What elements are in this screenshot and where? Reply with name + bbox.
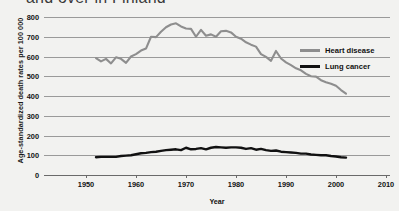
- chart-legend: Heart diseaseLung cancer: [300, 46, 374, 71]
- x-axis-tick-label: 2010: [378, 180, 394, 189]
- chart-title: and over in Finland: [26, 0, 166, 7]
- x-axis-tick-label: 1950: [78, 180, 94, 189]
- y-axis-tick-label: 200: [27, 131, 39, 140]
- y-axis-tick-label: 300: [27, 111, 39, 120]
- x-axis-tick: [336, 175, 337, 178]
- x-axis-tick: [386, 175, 387, 178]
- x-axis-tick: [86, 175, 87, 178]
- y-axis-tick-label: 700: [27, 32, 39, 41]
- x-axis-tick: [136, 175, 137, 178]
- legend-swatch-icon: [300, 65, 320, 68]
- x-axis-tick-label: 1970: [178, 180, 194, 189]
- legend-label: Lung cancer: [325, 62, 370, 71]
- y-axis-tick-label: 500: [27, 72, 39, 81]
- chart-title-clip: and over in Finland: [0, 0, 399, 11]
- x-axis-tick-label: 1960: [128, 180, 144, 189]
- y-axis-tick-label: 0: [35, 171, 39, 180]
- y-axis-tick-label: 400: [27, 92, 39, 101]
- x-axis-tick: [186, 175, 187, 178]
- legend-swatch-icon: [300, 49, 320, 51]
- x-axis-tick-label: 1980: [228, 180, 244, 189]
- data-series-layer: [44, 17, 390, 175]
- plot-area: 0100200300400500600700800 19501960197019…: [44, 17, 390, 175]
- y-axis-tick-label: 100: [27, 151, 39, 160]
- x-axis-line: [44, 175, 390, 176]
- legend-item[interactable]: Heart disease: [300, 46, 374, 55]
- x-axis-tick-label: 2000: [328, 180, 344, 189]
- x-axis-tick: [236, 175, 237, 178]
- y-axis-title: Age-standardized death rates per 100 000: [16, 3, 25, 179]
- legend-label: Heart disease: [325, 46, 374, 55]
- y-axis-tick-label: 600: [27, 52, 39, 61]
- x-axis-tick: [286, 175, 287, 178]
- y-axis-tick-label: 800: [27, 13, 39, 22]
- x-axis-tick-label: 1990: [278, 180, 294, 189]
- series-line-lung-cancer: [96, 147, 346, 158]
- chart-container: and over in Finland Age-standardized dea…: [0, 0, 399, 211]
- legend-item[interactable]: Lung cancer: [300, 62, 374, 71]
- x-axis-title: Year: [44, 197, 390, 206]
